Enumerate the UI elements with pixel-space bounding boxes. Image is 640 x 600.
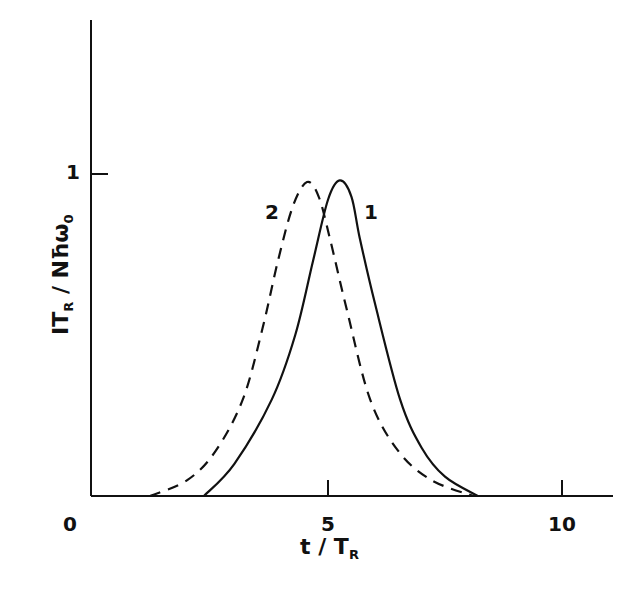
curve-2-dashed — [150, 182, 473, 496]
plot-area — [0, 0, 640, 600]
curve-label-1: 1 — [364, 200, 378, 224]
x-tick-label-0: 0 — [63, 512, 77, 536]
y-tick-label-1: 1 — [66, 160, 80, 184]
x-tick-label-5: 5 — [321, 512, 335, 536]
y-axis-label: ITR / Nħω0 — [48, 214, 76, 335]
x-tick-label-10: 10 — [548, 512, 576, 536]
curve-label-2: 2 — [265, 200, 279, 224]
curve-1-solid — [204, 180, 478, 496]
x-axis-label: t / TR — [300, 534, 359, 562]
